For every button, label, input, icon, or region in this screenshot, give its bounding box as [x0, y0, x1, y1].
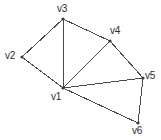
edge-layer — [22, 19, 143, 123]
graph-edge-v5-v6 — [138, 78, 143, 123]
graph-edge-v4-v5 — [110, 41, 143, 78]
graph-edge-v2-v3 — [22, 19, 63, 57]
vertex-label-v1: v1 — [51, 92, 61, 102]
graph-edge-v4-v1 — [63, 41, 110, 88]
vertex-label-v6: v6 — [132, 126, 142, 136]
graph-canvas — [0, 0, 161, 140]
vertex-label-v2: v2 — [5, 51, 15, 61]
graph-diagram: v1v2v3v4v5v6 — [0, 0, 161, 140]
graph-vertex-v3 — [61, 17, 64, 20]
graph-vertex-v4 — [108, 39, 111, 42]
graph-edge-v1-v5 — [63, 78, 143, 88]
graph-edge-v3-v4 — [63, 19, 110, 41]
vertex-label-v5: v5 — [145, 71, 155, 81]
vertex-layer — [20, 17, 144, 124]
graph-vertex-v1 — [61, 86, 64, 89]
graph-edge-v1-v6 — [63, 88, 138, 123]
vertex-label-v3: v3 — [57, 4, 67, 14]
vertex-label-v4: v4 — [110, 26, 120, 36]
graph-edge-v2-v1 — [22, 57, 63, 88]
graph-vertex-v2 — [20, 55, 23, 58]
